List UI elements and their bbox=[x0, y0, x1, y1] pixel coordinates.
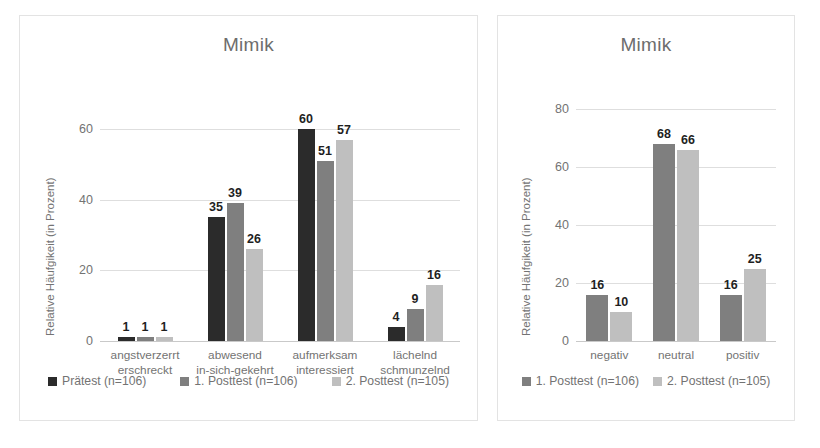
legend-item: 1. Posttest (n=106) bbox=[180, 374, 297, 388]
bar: 51 bbox=[317, 161, 334, 341]
bar-group: 111angstverzerrterschreckt bbox=[100, 101, 190, 341]
legend-item: 2. Posttest (n=105) bbox=[332, 374, 449, 388]
chart-right-legend: 1. Posttest (n=106)2. Posttest (n=105) bbox=[498, 374, 794, 388]
bar-value-label: 9 bbox=[412, 292, 419, 306]
bar-value-label: 68 bbox=[657, 127, 671, 141]
category-label-line: negativ bbox=[590, 348, 628, 362]
legend-label: Prätest (n=106) bbox=[62, 374, 146, 388]
legend-item: 2. Posttest (n=105) bbox=[653, 374, 770, 388]
bar: 16 bbox=[720, 295, 742, 341]
bar: 4 bbox=[388, 327, 405, 341]
y-axis-tick-label: 80 bbox=[555, 102, 569, 116]
x-axis-line bbox=[576, 341, 776, 342]
bar: 60 bbox=[298, 129, 315, 341]
bar-value-label: 26 bbox=[247, 232, 261, 246]
bar: 57 bbox=[336, 140, 353, 341]
bar: 16 bbox=[586, 295, 608, 341]
legend-swatch-icon bbox=[653, 377, 662, 386]
legend-swatch-icon bbox=[180, 377, 189, 386]
chart-left-title: Mimik bbox=[20, 34, 477, 56]
bar-value-label: 25 bbox=[748, 252, 762, 266]
chart-right-plot-area: 0204060801610negativ6866neutral1625posit… bbox=[576, 86, 776, 341]
bar-value-label: 1 bbox=[123, 320, 130, 334]
chart-left-legend: Prätest (n=106)1. Posttest (n=106)2. Pos… bbox=[20, 374, 477, 388]
legend-swatch-icon bbox=[522, 377, 531, 386]
y-axis-tick-label: 40 bbox=[555, 218, 569, 232]
chart-right-y-axis-title: Relative Häufgikeit (in Prozent) bbox=[520, 177, 532, 336]
legend-item: 1. Posttest (n=106) bbox=[522, 374, 639, 388]
legend-label: 1. Posttest (n=106) bbox=[194, 374, 297, 388]
legend-label: 2. Posttest (n=105) bbox=[346, 374, 449, 388]
bar: 16 bbox=[426, 285, 443, 341]
chart-right-title: Mimik bbox=[498, 34, 794, 56]
y-axis-tick-label: 60 bbox=[79, 122, 93, 136]
category-label-line: lächelnd bbox=[393, 348, 437, 362]
bar: 1 bbox=[137, 337, 154, 341]
chart-left-plot-area: 0204060111angstverzerrterschreckt353926a… bbox=[100, 101, 460, 341]
bar-value-label: 16 bbox=[590, 278, 604, 292]
bar-group: 1625positiv bbox=[709, 86, 776, 341]
bar-value-label: 1 bbox=[142, 320, 149, 334]
bar: 39 bbox=[227, 203, 244, 341]
bar-value-label: 4 bbox=[393, 310, 400, 324]
chart-left: Mimik Relative Häufgikeit (in Prozent) 0… bbox=[19, 15, 478, 421]
bar: 10 bbox=[610, 312, 632, 341]
category-label-line: aufmerksam bbox=[293, 348, 358, 362]
bar-value-label: 16 bbox=[724, 278, 738, 292]
legend-label: 1. Posttest (n=106) bbox=[536, 374, 639, 388]
bar-value-label: 10 bbox=[614, 295, 628, 309]
bar-group: 605157aufmerksaminteressiert bbox=[280, 101, 370, 341]
category-label-line: angstverzerrt bbox=[111, 348, 180, 362]
bar: 66 bbox=[677, 150, 699, 341]
bar-value-label: 51 bbox=[318, 144, 332, 158]
x-axis-category-label: positiv bbox=[726, 348, 759, 363]
bar: 26 bbox=[246, 249, 263, 341]
bar-value-label: 39 bbox=[228, 186, 242, 200]
bar-group: 353926abwesendin-sich-gekehrt bbox=[190, 101, 280, 341]
figure-root: Mimik Relative Häufgikeit (in Prozent) 0… bbox=[0, 0, 820, 448]
chart-left-y-axis-title: Relative Häufgikeit (in Prozent) bbox=[44, 177, 56, 336]
y-axis-tick-label: 40 bbox=[79, 193, 93, 207]
y-axis-tick-label: 0 bbox=[562, 334, 569, 348]
x-axis-line bbox=[100, 341, 460, 342]
bar-value-label: 35 bbox=[209, 200, 223, 214]
bar-value-label: 66 bbox=[681, 133, 695, 147]
legend-item: Prätest (n=106) bbox=[48, 374, 146, 388]
bar-group: 4916lächelndschmunzelnd bbox=[370, 101, 460, 341]
y-axis-tick-label: 0 bbox=[86, 334, 93, 348]
category-label-line: abwesend bbox=[208, 348, 262, 362]
x-axis-category-label: neutral bbox=[658, 348, 694, 363]
bar: 1 bbox=[118, 337, 135, 341]
category-label-line: positiv bbox=[726, 348, 759, 362]
category-label-line: neutral bbox=[658, 348, 694, 362]
legend-label: 2. Posttest (n=105) bbox=[667, 374, 770, 388]
bar: 9 bbox=[407, 309, 424, 341]
y-axis-tick-label: 20 bbox=[79, 263, 93, 277]
bar: 35 bbox=[208, 217, 225, 341]
bar: 68 bbox=[653, 144, 675, 341]
bar-group: 1610negativ bbox=[576, 86, 643, 341]
y-axis-tick-label: 60 bbox=[555, 160, 569, 174]
bar-group: 6866neutral bbox=[643, 86, 710, 341]
chart-right: Mimik Relative Häufgikeit (in Prozent) 0… bbox=[497, 15, 795, 421]
x-axis-category-label: negativ bbox=[590, 348, 628, 363]
y-axis-tick-label: 20 bbox=[555, 276, 569, 290]
legend-swatch-icon bbox=[48, 377, 57, 386]
bar-value-label: 60 bbox=[299, 112, 313, 126]
bar-value-label: 1 bbox=[161, 320, 168, 334]
bar: 1 bbox=[156, 337, 173, 341]
bar-value-label: 57 bbox=[337, 123, 351, 137]
legend-swatch-icon bbox=[332, 377, 341, 386]
bar: 25 bbox=[744, 269, 766, 341]
bar-value-label: 16 bbox=[427, 268, 441, 282]
